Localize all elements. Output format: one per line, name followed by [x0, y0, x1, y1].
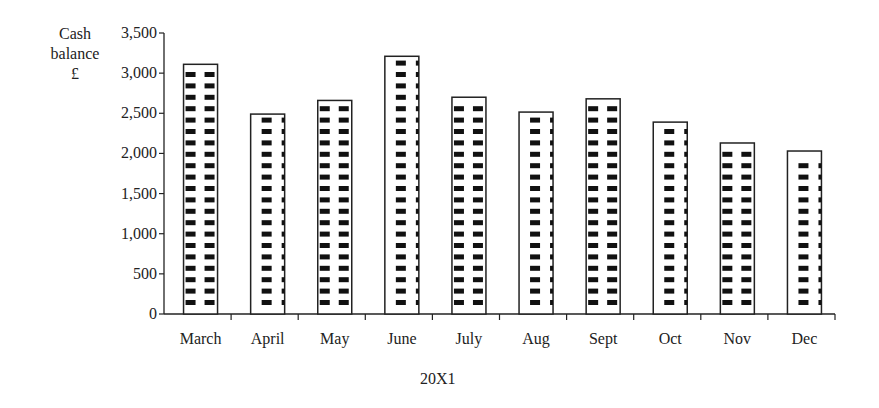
x-tick-label: Sept: [589, 330, 618, 348]
bar-march: [184, 64, 218, 314]
x-tick-label: May: [320, 330, 349, 348]
bar-june: [385, 56, 419, 314]
bar-may: [318, 100, 352, 314]
x-tick-label: Dec: [792, 330, 818, 347]
x-tick-label: June: [387, 330, 416, 347]
x-tick-label: Nov: [724, 330, 752, 347]
y-tick-label: 3,000: [121, 64, 157, 81]
bar-oct: [653, 122, 687, 314]
bar-chart: 05001,0001,5002,0002,5003,0003,500MarchA…: [0, 0, 879, 408]
y-tick-label: 2,000: [121, 144, 157, 161]
x-axis-label: 20X1: [420, 370, 456, 388]
y-tick-label: 1,500: [121, 185, 157, 202]
y-tick-label: 1,000: [121, 225, 157, 242]
y-tick-label: 3,500: [121, 24, 157, 41]
bar-july: [452, 97, 486, 314]
x-tick-label: April: [251, 330, 285, 348]
x-tick-label: Oct: [659, 330, 683, 347]
y-tick-label: 500: [133, 265, 157, 282]
bar-sept: [586, 99, 620, 314]
x-tick-label: March: [180, 330, 222, 347]
bars: [184, 56, 822, 314]
bar-april: [251, 114, 285, 314]
bar-nov: [720, 143, 754, 314]
bar-dec: [787, 151, 821, 314]
x-tick-label: July: [456, 330, 483, 348]
bar-aug: [519, 112, 553, 314]
y-tick-label: 0: [149, 305, 157, 322]
x-tick-label: Aug: [522, 330, 550, 348]
y-tick-label: 2,500: [121, 104, 157, 121]
